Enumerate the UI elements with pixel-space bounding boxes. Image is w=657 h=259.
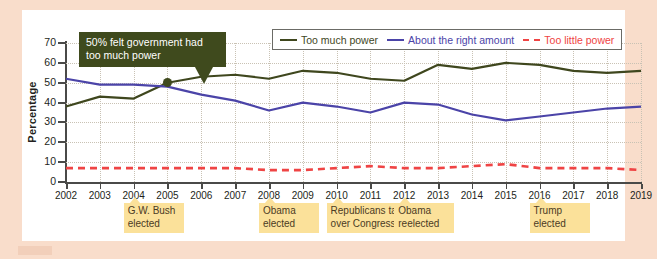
x-axis-tick bbox=[134, 184, 136, 189]
series-line-about-the-right-amount bbox=[66, 79, 641, 121]
x-axis-tick bbox=[100, 184, 102, 189]
y-axis-tick-label: 30 bbox=[30, 115, 56, 127]
x-axis-tick bbox=[404, 184, 406, 189]
x-axis-tick-label: 2018 bbox=[589, 190, 625, 201]
y-axis-tick-label: 40 bbox=[30, 96, 56, 108]
x-axis-tick bbox=[370, 184, 372, 189]
series-line-too-little-power bbox=[66, 164, 641, 170]
x-axis-tick bbox=[337, 184, 339, 189]
y-axis-tick-label: 50 bbox=[30, 76, 56, 88]
legend-label-too-little-power: Too little power bbox=[544, 34, 614, 46]
x-axis-tick-label: 2009 bbox=[285, 190, 321, 201]
callout-annotation: 50% felt government had too much power bbox=[79, 32, 226, 67]
x-axis-tick bbox=[167, 184, 169, 189]
x-axis-tick-label: 2007 bbox=[217, 190, 253, 201]
event-note-pointer-icon bbox=[265, 197, 275, 203]
legend-label-about-right: About the right amount bbox=[408, 34, 514, 46]
x-axis-tick bbox=[472, 184, 474, 189]
x-axis-tick bbox=[607, 184, 609, 189]
x-axis-tick bbox=[66, 184, 68, 189]
x-axis-tick-label: 2013 bbox=[420, 190, 456, 201]
y-axis-title: Percentage bbox=[26, 54, 38, 170]
x-axis-tick-label: 2003 bbox=[82, 190, 118, 201]
legend-label-too-much-power: Too much power bbox=[301, 34, 378, 46]
x-axis-tick-label: 2017 bbox=[555, 190, 591, 201]
event-note-pointer-icon bbox=[333, 197, 343, 203]
x-axis-tick bbox=[303, 184, 305, 189]
legend-item-too-much-power[interactable]: Too much power bbox=[280, 34, 378, 46]
x-axis-tick bbox=[506, 184, 508, 189]
event-note-trump-elected: Trump elected bbox=[530, 203, 590, 233]
legend-item-too-little-power[interactable]: Too little power bbox=[523, 34, 614, 46]
x-axis-tick bbox=[438, 184, 440, 189]
event-note-pointer-icon bbox=[130, 197, 140, 203]
page-corner-smudge bbox=[18, 246, 52, 255]
y-axis-tick-label: 60 bbox=[30, 56, 56, 68]
event-note-gw-bush-elected: G.W. Bush elected bbox=[124, 203, 184, 233]
x-axis-tick-label: 2011 bbox=[352, 190, 388, 201]
chart-legend: Too much power About the right amount To… bbox=[272, 29, 622, 50]
y-axis-title-wrapper: Percentage bbox=[24, 56, 40, 171]
gridline-vertical bbox=[641, 43, 642, 182]
callout-pointer-icon bbox=[195, 67, 213, 84]
x-axis-tick bbox=[269, 184, 271, 189]
x-axis-tick-label: 2005 bbox=[149, 190, 185, 201]
x-axis-tick-label: 2014 bbox=[454, 190, 490, 201]
legend-swatch-icon-too-little-power bbox=[523, 39, 540, 41]
chart-panel: Percentage 706050403020100 2002200320042… bbox=[22, 10, 625, 241]
event-note-obama-elected: Obama elected bbox=[259, 203, 319, 233]
x-axis-tick-label: 2002 bbox=[48, 190, 84, 201]
callout-text: 50% felt government had too much power bbox=[86, 36, 203, 61]
x-axis-tick-label: 2015 bbox=[488, 190, 524, 201]
legend-item-about-right[interactable]: About the right amount bbox=[387, 34, 514, 46]
y-axis-tick-label: 10 bbox=[30, 155, 56, 167]
x-axis-line bbox=[65, 182, 642, 184]
y-axis-tick-label: 0 bbox=[30, 175, 56, 187]
x-axis-tick bbox=[540, 184, 542, 189]
x-axis-tick-label: 2019 bbox=[623, 190, 657, 201]
legend-swatch-icon-about-right bbox=[387, 39, 404, 41]
event-note-pointer-icon bbox=[536, 197, 546, 203]
x-axis-tick bbox=[235, 184, 237, 189]
x-axis-tick-label: 2006 bbox=[183, 190, 219, 201]
x-axis-tick bbox=[641, 184, 643, 189]
event-note-pointer-icon bbox=[400, 197, 410, 203]
y-axis-tick-label: 70 bbox=[30, 36, 56, 48]
x-axis-tick bbox=[201, 184, 203, 189]
y-axis-tick-label: 20 bbox=[30, 135, 56, 147]
event-note-obama-reelected: Obama reelected bbox=[394, 203, 454, 233]
x-axis-tick bbox=[573, 184, 575, 189]
legend-swatch-icon-too-much-power bbox=[280, 39, 297, 41]
